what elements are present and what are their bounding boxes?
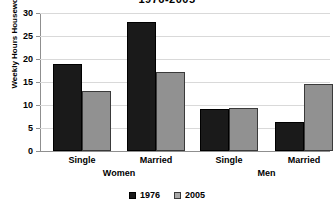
gridline (40, 59, 330, 60)
legend-swatch-1976 (129, 192, 136, 199)
gridline (40, 82, 330, 83)
bar-1976-0 (53, 64, 82, 151)
legend-label-2005: 2005 (185, 191, 205, 200)
bar-chart: 1976-2005 Weekly Hours Housework 0510152… (0, 0, 334, 206)
y-tick-label: 15 (0, 78, 40, 87)
legend-item-1976: 1976 (129, 191, 160, 200)
legend-item-2005: 2005 (174, 191, 205, 200)
bar-2005-0 (82, 91, 111, 151)
bar-1976-2 (200, 109, 229, 151)
plot-area (40, 13, 330, 151)
category-label: Married (117, 155, 195, 165)
bar-2005-1 (156, 72, 185, 151)
legend-label-1976: 1976 (140, 191, 160, 200)
chart-title: 1976-2005 (0, 0, 334, 5)
y-tick-mark (36, 151, 40, 152)
chart-legend: 1976 2005 (0, 191, 334, 200)
y-tick-label: 0 (0, 147, 40, 156)
y-tick-label: 5 (0, 124, 40, 133)
bar-1976-3 (275, 122, 304, 151)
group-label-men: Men (227, 168, 307, 178)
y-tick-label: 10 (0, 101, 40, 110)
x-axis-line (40, 151, 330, 152)
legend-swatch-2005 (174, 192, 181, 199)
category-label: Single (190, 155, 268, 165)
bar-2005-3 (304, 84, 333, 151)
gridline (40, 36, 330, 37)
y-tick-label: 30 (0, 9, 40, 18)
y-tick-label: 20 (0, 55, 40, 64)
bar-1976-1 (127, 22, 156, 151)
y-tick-label: 25 (0, 32, 40, 41)
category-label: Married (265, 155, 334, 165)
group-label-women: Women (79, 168, 159, 178)
bar-2005-2 (229, 108, 258, 151)
category-label: Single (43, 155, 121, 165)
gridline (40, 13, 330, 14)
